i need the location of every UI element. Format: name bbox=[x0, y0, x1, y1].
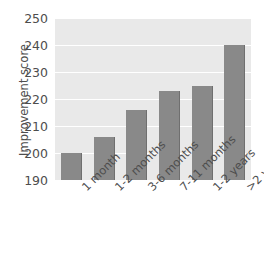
y-tick-label: 240 bbox=[24, 38, 48, 53]
bar bbox=[61, 153, 82, 180]
y-tick-label: 200 bbox=[24, 146, 48, 161]
y-tick-label: 190 bbox=[24, 173, 48, 188]
x-tick-label: 1 month bbox=[79, 184, 89, 194]
y-tick-label: 220 bbox=[24, 92, 48, 107]
bar-chart: Improvement score 190200210220230240250 … bbox=[0, 0, 264, 253]
x-axis-tick-labels: 1 month1-2 months3-6 months7-11 months1-… bbox=[55, 180, 251, 253]
x-tick-label: 3-6 months bbox=[145, 184, 155, 194]
x-tick-label: 1-2 years bbox=[210, 184, 220, 194]
x-tick-label: 7-11 months bbox=[177, 184, 187, 194]
y-tick-label: 230 bbox=[24, 65, 48, 80]
y-tick-label: 210 bbox=[24, 119, 48, 134]
y-axis-tick-labels: 190200210220230240250 bbox=[16, 18, 52, 180]
x-tick-label: >2 years bbox=[243, 184, 253, 194]
x-tick-label: 1-2 months bbox=[112, 184, 122, 194]
y-tick-label: 250 bbox=[24, 11, 48, 26]
